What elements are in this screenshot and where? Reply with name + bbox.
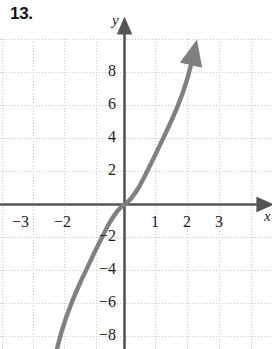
y-tick-label-2: 2	[86, 161, 116, 179]
gridlines-vertical	[3, 39, 252, 349]
x-tick-label-3: 3	[215, 213, 223, 231]
y-tick-label-4: 4	[86, 128, 116, 146]
y-axis-name-label: y	[112, 12, 119, 29]
x-tick-label--2: −2	[54, 213, 71, 231]
y-tick-label--4: −4	[80, 260, 116, 278]
x-tick-label-2: 2	[183, 213, 191, 231]
x-tick-label--3: −3	[12, 213, 29, 231]
y-tick-label--2: −2	[80, 227, 116, 245]
x-tick-label-1: 1	[151, 213, 159, 231]
y-tick-label-6: 6	[86, 95, 116, 113]
x-axis-name-label: x	[264, 208, 271, 225]
y-tick-label--6: −6	[80, 293, 116, 311]
math-figure-cubic-graph: 13.	[0, 0, 272, 349]
coordinate-plane-svg	[0, 0, 272, 349]
y-tick-label--8: −8	[80, 326, 116, 344]
y-tick-label-8: 8	[86, 62, 116, 80]
